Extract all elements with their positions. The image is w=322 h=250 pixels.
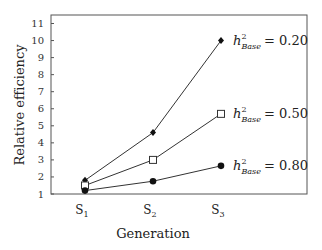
y-tick-label: 6 xyxy=(38,103,44,114)
y-tick-label: 1 xyxy=(38,189,44,200)
y-tick-label: 10 xyxy=(31,35,44,46)
x-tick-label: S2 xyxy=(143,203,156,219)
y-tick-label: 5 xyxy=(38,120,44,131)
circle-marker xyxy=(150,178,157,185)
y-tick-label: 3 xyxy=(38,154,44,165)
y-tick-label: 7 xyxy=(38,86,44,97)
y-tick-label: 11 xyxy=(31,18,44,29)
series-line xyxy=(85,114,221,186)
x-axis-label: Generation xyxy=(116,226,190,241)
x-tick-label: S3 xyxy=(211,203,224,219)
y-tick-label: 4 xyxy=(38,137,44,148)
circle-marker xyxy=(218,163,225,170)
y-tick-label: 2 xyxy=(38,171,44,182)
square-marker xyxy=(218,110,225,117)
legend-label: h2Base= 0.20 xyxy=(233,32,308,51)
y-tick-label: 9 xyxy=(38,52,44,63)
legend: h2Base= 0.20h2Base= 0.50h2Base= 0.80 xyxy=(233,32,308,176)
x-axis: S1S2S3 xyxy=(75,203,224,219)
line-chart: 1234567891011 S1S2S3 h2Base= 0.20h2Base=… xyxy=(0,0,322,250)
circle-marker xyxy=(82,187,89,194)
legend-label: h2Base= 0.50 xyxy=(233,105,308,124)
y-axis-label: Relative efficiency xyxy=(12,44,27,166)
square-marker xyxy=(150,156,157,163)
legend-label: h2Base= 0.80 xyxy=(233,157,308,176)
y-tick-label: 8 xyxy=(38,69,44,80)
x-tick-label: S1 xyxy=(75,203,88,219)
series-group xyxy=(82,37,225,194)
